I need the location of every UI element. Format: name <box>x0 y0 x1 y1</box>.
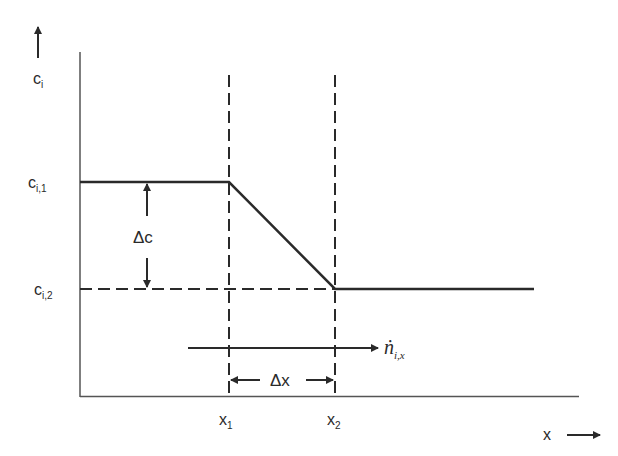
level-ci2-label: ci,2 <box>34 281 53 301</box>
position-x2-label: x2 <box>327 411 341 431</box>
delta-c-label: Δc <box>133 228 153 247</box>
level-ci1-label: ci,1 <box>28 174 47 194</box>
x-axis-label: x <box>543 426 551 443</box>
diagram-canvas: ci x ci,1 ci,2 Δc ṅi,x Δx x1 x2 <box>0 0 618 456</box>
y-axis-label: ci <box>33 70 43 90</box>
position-x1-label: x1 <box>219 411 233 431</box>
flux-label: ṅi,x <box>384 336 405 361</box>
delta-x-label: Δx <box>270 371 290 390</box>
